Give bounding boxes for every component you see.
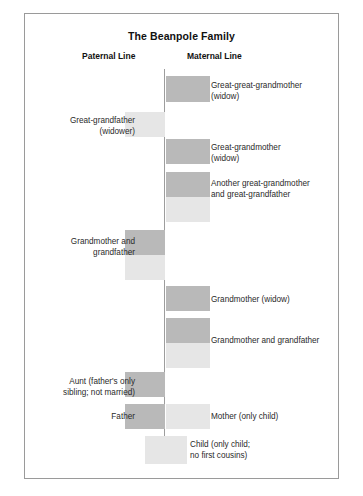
paternal-line-header: Paternal Line [82,51,135,61]
bar-male [125,255,165,280]
bar-female [166,139,210,164]
row-label: Grandmother and grandfather [13,236,135,258]
row-label: Child (only child; no first cousins) [190,439,318,461]
row-label: Grandmother (widow) [211,294,341,305]
figure-title: The Beanpole Family [25,30,338,42]
row-label: Great-grandfather (widower) [13,115,135,137]
row-label: Aunt (father's only sibling; not married… [13,376,135,398]
bar-female [166,76,210,102]
bar-female [166,318,210,343]
bar-male [166,197,210,222]
row-label: Great-grandmother (widow) [211,142,333,164]
row-label: Another great-grandmother and great-gran… [211,178,339,200]
row-label-mother: Mother (only child) [211,411,333,422]
row-label: Great-great-grandmother (widow) [211,80,333,102]
bar-mother [166,404,210,429]
row-label-father: Father [13,411,135,422]
figure-frame: The Beanpole Family Paternal Line Matern… [24,13,339,479]
maternal-line-header: Maternal Line [187,51,242,61]
bar-male [166,343,210,368]
row-label: Grandmother and grandfather [211,335,341,346]
bar-female [166,286,210,311]
bar-female [166,172,210,197]
bar-child [145,436,187,464]
